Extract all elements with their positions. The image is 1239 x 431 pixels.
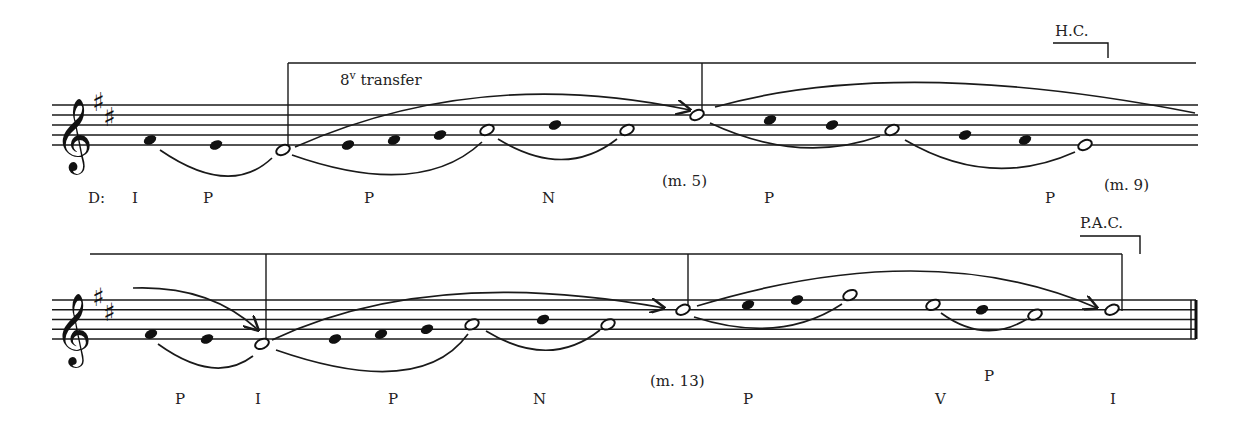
filled-note-head <box>199 332 214 345</box>
label-main: 8 <box>340 71 350 89</box>
barline-thick <box>1195 300 1198 339</box>
analysis-symbol-label: P <box>984 367 994 385</box>
filled-note-head <box>824 118 839 131</box>
cadence-bracket <box>1053 43 1108 58</box>
measure-number-label: (m. 9) <box>1104 176 1149 194</box>
analysis-symbol-label: P <box>743 390 753 408</box>
slur <box>160 150 272 176</box>
analysis-symbol-label: P <box>203 189 213 207</box>
analysis-symbol-label: P <box>1045 189 1055 207</box>
analysis-symbol-label: I <box>255 390 261 408</box>
filled-note-head <box>974 303 989 316</box>
analysis-symbol-label: P <box>364 189 374 207</box>
arrow-slur <box>697 271 1097 308</box>
analysis-symbol-label: N <box>542 189 555 207</box>
analysis-symbol-label: I <box>132 189 138 207</box>
note-fill <box>432 128 447 141</box>
slur <box>715 82 1195 113</box>
filled-note-head <box>547 118 562 131</box>
filled-note-head <box>208 138 223 151</box>
staff-system-2: 𝄞♯♯P.A.C.(m. 13)PIPNPPVI <box>52 214 1198 408</box>
sharp-icon: ♯ <box>103 297 115 327</box>
analysis-symbol-label: N <box>533 390 546 408</box>
cadence-bracket <box>1080 236 1140 254</box>
note-fill <box>824 118 839 131</box>
filled-note-head <box>340 138 355 151</box>
note-fill <box>208 138 223 151</box>
slur <box>292 142 482 175</box>
note-fill <box>957 128 972 141</box>
sharp-icon: ♯ <box>103 102 116 132</box>
slur <box>158 344 253 368</box>
treble-clef-icon: 𝄞 <box>55 97 93 175</box>
arrow-slur <box>295 94 690 147</box>
half-note-head <box>689 108 706 122</box>
slur <box>694 304 842 328</box>
half-note-head <box>675 303 692 317</box>
note-fill <box>327 332 342 345</box>
staff-system-1: 𝄞♯♯8v transferH.C.(m. 5)(m. 9)D:IPPNPP <box>52 22 1198 207</box>
cadence-label: H.C. <box>1055 22 1089 40</box>
note-fill <box>789 293 804 306</box>
note-fill <box>547 118 562 131</box>
filled-note-head <box>535 313 550 326</box>
note-fill <box>419 323 434 336</box>
note-fill <box>199 332 214 345</box>
label-rest: transfer <box>356 71 423 89</box>
arrow-slur <box>133 288 258 330</box>
filled-note-head <box>419 323 434 336</box>
filled-note-head <box>789 293 804 306</box>
slur <box>941 313 1027 331</box>
octave-transfer-label: 8v transfer <box>340 69 422 89</box>
half-note-head <box>1077 138 1094 152</box>
analysis-symbol-label: V <box>934 390 947 408</box>
slur <box>498 139 617 160</box>
filled-note-head <box>957 128 972 141</box>
schenkerian-graph: 𝄞♯♯8v transferH.C.(m. 5)(m. 9)D:IPPNPP 𝄞… <box>0 0 1239 431</box>
filled-note-head <box>432 128 447 141</box>
analysis-symbol-label: P <box>175 390 185 408</box>
cadence-label: P.A.C. <box>1080 214 1123 232</box>
slur <box>486 330 600 350</box>
note-fill <box>535 313 550 326</box>
treble-clef-icon: 𝄞 <box>55 292 92 368</box>
analysis-symbol-label: P <box>388 390 398 408</box>
analysis-symbol-label: P <box>764 189 774 207</box>
half-note-head <box>1104 303 1121 317</box>
analysis-symbol-label: I <box>1110 390 1116 408</box>
note-fill <box>974 303 989 316</box>
filled-note-head <box>327 332 342 345</box>
note-fill <box>340 138 355 151</box>
measure-number-label: (m. 13) <box>650 372 705 390</box>
measure-number-label: (m. 5) <box>662 172 707 190</box>
analysis-symbol-label: D: <box>88 189 105 207</box>
